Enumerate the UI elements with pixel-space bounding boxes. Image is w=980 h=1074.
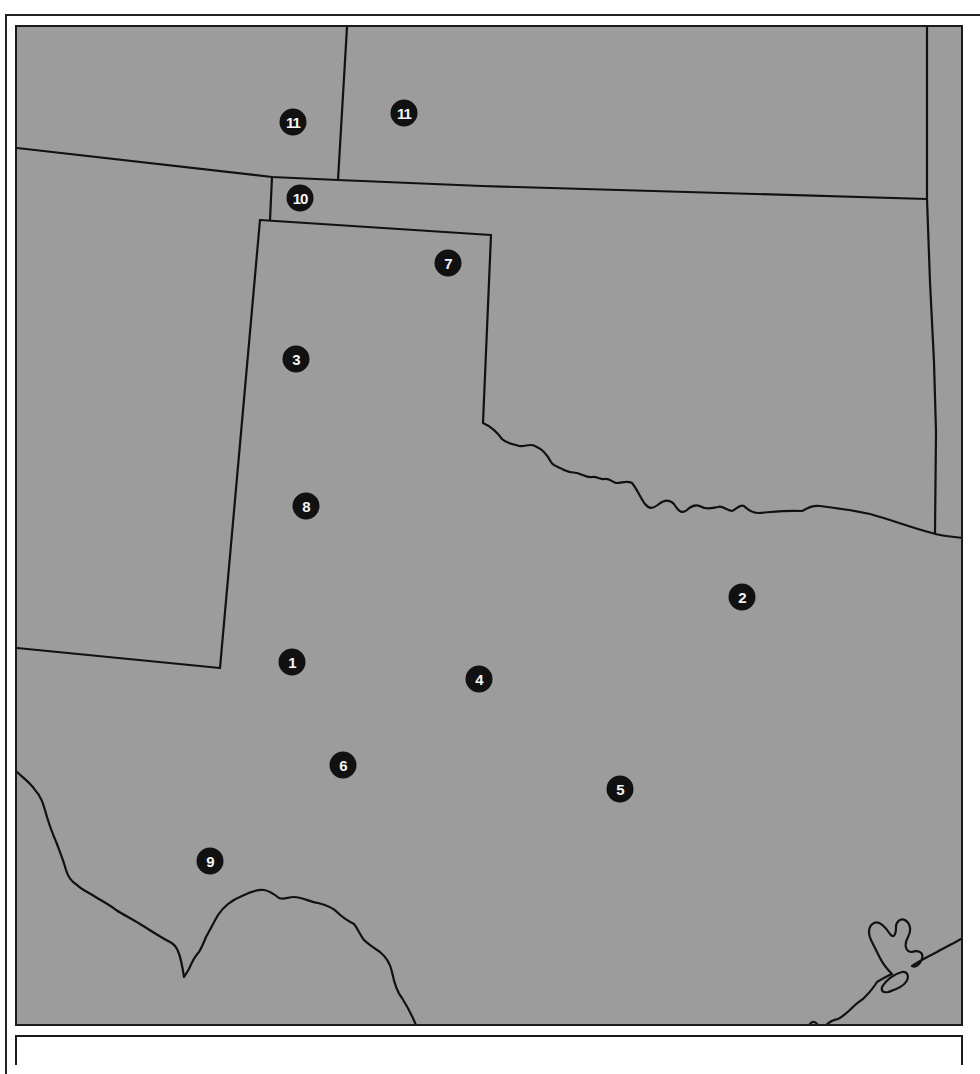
site-marker-4[interactable]: 4 [466, 666, 493, 693]
site-marker-11[interactable]: 11 [391, 100, 418, 127]
caption-box [15, 1035, 963, 1065]
gulf-coast [808, 919, 963, 1026]
border-east [927, 27, 936, 533]
site-marker-11[interactable]: 11 [280, 109, 307, 136]
site-marker-1[interactable]: 1 [279, 649, 306, 676]
site-marker-7[interactable]: 7 [435, 250, 462, 277]
border-nm-north [260, 220, 491, 235]
border-tx-panhandle-east [483, 235, 491, 423]
red-river [483, 423, 963, 538]
site-marker-9[interactable]: 9 [197, 848, 224, 875]
border-north [17, 148, 927, 199]
border-nm-south [17, 648, 220, 668]
state-borders [17, 27, 963, 1026]
site-marker-6[interactable]: 6 [330, 752, 357, 779]
site-marker-10[interactable]: 10 [287, 185, 314, 212]
site-marker-2[interactable]: 2 [729, 584, 756, 611]
border-wy-ne [338, 27, 347, 180]
gulf-island [882, 972, 908, 992]
site-marker-3[interactable]: 3 [283, 346, 310, 373]
border-co-west [270, 177, 272, 220]
border-nm-west [220, 220, 260, 668]
site-marker-8[interactable]: 8 [293, 493, 320, 520]
map-panel: 123456789101111 [15, 25, 963, 1026]
site-marker-5[interactable]: 5 [607, 776, 634, 803]
rio-grande [17, 772, 417, 1026]
